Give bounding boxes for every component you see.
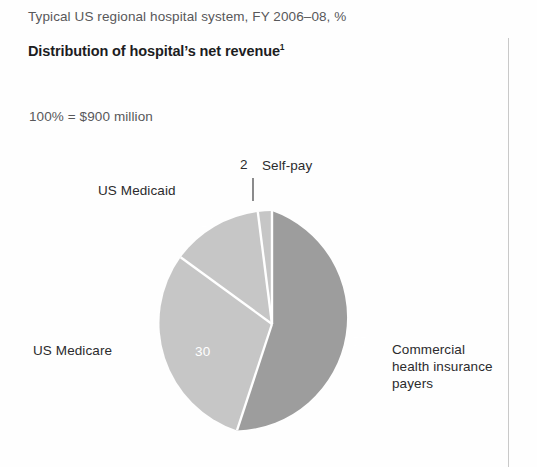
- pie-label-self-pay: Self-pay: [262, 157, 312, 174]
- pie-chart: Self-pay US Medicaid US Medicare Commerc…: [0, 0, 537, 467]
- pie-label-commercial-line-2: health insurance: [392, 358, 522, 375]
- pie-chart-svg: [0, 0, 537, 467]
- pie-label-commercial: Commercial health insurance payers: [392, 341, 522, 392]
- pie-label-commercial-line-1: Commercial: [392, 341, 522, 358]
- pie-label-commercial-line-3: payers: [392, 375, 522, 392]
- pie-value-us-medicaid: 13: [200, 215, 215, 230]
- pie-value-self-pay: 2: [240, 157, 248, 172]
- pie-label-us-medicaid: US Medicaid: [98, 182, 176, 199]
- pie-value-us-medicare: 30: [195, 344, 210, 359]
- pie-value-commercial: 55: [352, 334, 367, 349]
- exhibit-canvas: Typical US regional hospital system, FY …: [0, 0, 537, 467]
- pie-label-us-medicare: US Medicare: [33, 342, 112, 359]
